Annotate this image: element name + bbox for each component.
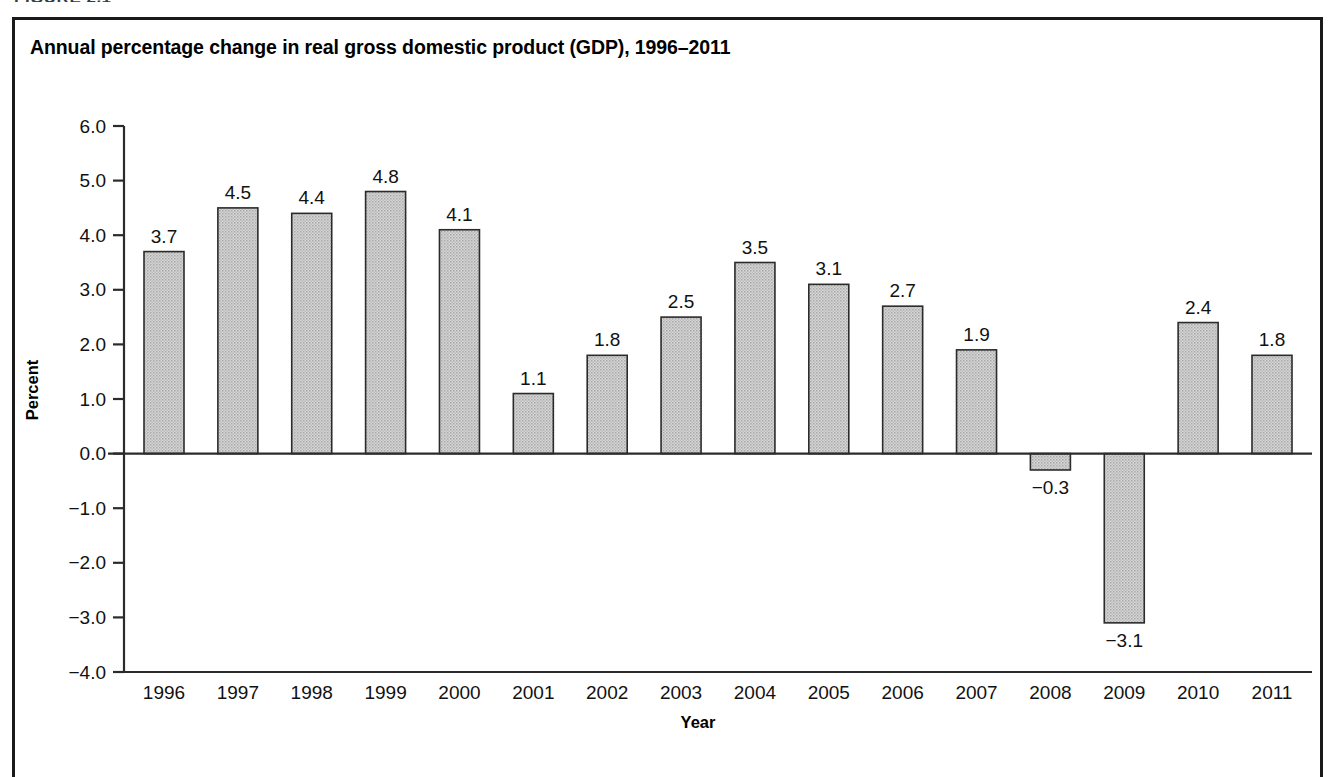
figure-number-label: FIGURE 2.1 [14, 0, 112, 2]
figure-frame [12, 17, 1323, 777]
chart-title: Annual percentage change in real gross d… [30, 36, 730, 59]
